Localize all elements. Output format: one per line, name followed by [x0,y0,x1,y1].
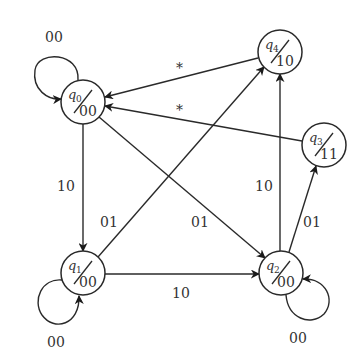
label-q2-q4: 10 [255,178,273,194]
node-q0: q 0 00 [61,80,105,124]
label-q2-loop: 00 [289,330,307,346]
state-output: 10 [276,53,294,69]
node-q3: q 3 11 [302,123,346,167]
label-q0-loop: 00 [45,29,63,45]
node-q1: q 1 00 [61,251,105,295]
label-q2-q3: 01 [303,214,321,230]
label-q3-q0: * [176,102,183,118]
edge-q1-q4 [98,67,264,257]
label-q1-q2: 10 [172,285,190,301]
state-diagram: q 0 00 q 1 00 q 2 00 q 3 11 q 4 10 00 10… [0,0,359,364]
node-q4: q 4 10 [258,30,302,74]
label-q1-q4: 01 [100,214,118,230]
state-output: 00 [79,103,97,119]
edge-q0-q2 [99,117,265,258]
label-q4-q0: * [176,60,183,76]
label-q0-q2: 01 [191,214,209,230]
edge-q2-q3 [289,166,316,252]
state-output: 00 [277,274,295,290]
label-q1-loop: 00 [47,334,65,350]
state-output: 00 [79,274,97,290]
label-q0-q1: 10 [57,178,75,194]
state-output: 11 [320,146,338,162]
node-q2: q 2 00 [259,251,303,295]
